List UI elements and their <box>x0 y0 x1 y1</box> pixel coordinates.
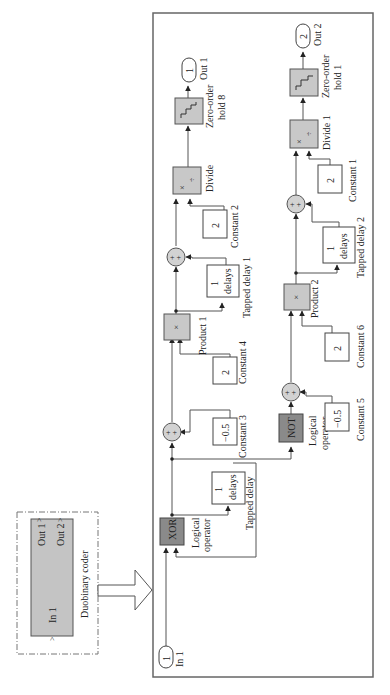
svg-text:delays: delays <box>227 474 238 500</box>
svg-text:1: 1 <box>161 656 172 661</box>
svg-text:−0.5: −0.5 <box>220 424 231 442</box>
svg-text:×: × <box>294 293 299 302</box>
tapped-delay-1-label: Tapped delay 1 <box>241 257 252 318</box>
constant-6[interactable]: 2 Constant 6 <box>325 325 366 368</box>
svg-text:delays: delays <box>222 268 233 294</box>
divide-1-label: Divide 1 <box>321 115 332 150</box>
constant-3[interactable]: −0.5 Constant 3 <box>213 415 248 458</box>
sum-bottom-1[interactable]: + + <box>282 383 300 401</box>
svg-text:+ +: + + <box>290 200 302 209</box>
svg-text:×: × <box>295 139 304 144</box>
svg-text:×: × <box>174 323 179 332</box>
xor-label-1: Logical <box>190 517 201 548</box>
svg-text:+ +: + + <box>166 428 178 437</box>
sum-top-1[interactable]: + + <box>163 423 181 441</box>
expand-arrow-icon <box>98 570 152 610</box>
svg-text:XOR: XOR <box>167 519 178 540</box>
svg-text:1: 1 <box>209 281 220 286</box>
svg-text:+ +: + + <box>285 388 297 397</box>
subsystem-title: Duobinary coder <box>79 550 90 618</box>
port-caret-out2: > <box>56 517 65 522</box>
constant-2-label: Constant 2 <box>229 205 240 248</box>
svg-text:×: × <box>178 185 187 190</box>
port-caret-out1: > <box>35 517 44 522</box>
xor-logical-operator[interactable]: XOR Logical operator <box>160 517 212 552</box>
svg-text:1: 1 <box>213 487 224 492</box>
sum-top-2[interactable]: + + <box>167 248 185 266</box>
outport-out1-label: Out 1 <box>198 58 209 81</box>
product-2-label: Product 2 <box>309 279 320 318</box>
tapped-delay-2-label: Tapped delay 2 <box>355 217 366 278</box>
inport-in1-label: In 1 <box>174 651 185 667</box>
tapped-delay[interactable]: 1 delays Tapped delay <box>212 472 255 530</box>
svg-text:1: 1 <box>184 68 195 73</box>
constant-4-label: Constant 4 <box>237 341 248 384</box>
inport-in1[interactable]: 1 In 1 <box>159 646 185 668</box>
zoh-1-label-1: Zero-order <box>320 54 331 98</box>
svg-text:+ +: + + <box>170 253 182 262</box>
diagram-canvas: In 1 Out 1 Out 2 > > > Duobinary coder <box>0 0 390 695</box>
zoh-1-label-2: hold 1 <box>332 65 343 90</box>
svg-text:÷: ÷ <box>305 131 314 136</box>
constant-1-label: Constant 1 <box>347 159 358 202</box>
svg-text:2: 2 <box>332 346 343 351</box>
product-1-label: Product 1 <box>197 316 208 355</box>
constant-1[interactable]: 2 Constant 1 <box>318 159 358 202</box>
xor-label-2: operator <box>201 518 212 552</box>
svg-text:2: 2 <box>325 178 336 183</box>
constant-5[interactable]: −0.5 Constant 5 <box>325 398 366 441</box>
svg-text:2: 2 <box>298 34 309 39</box>
product-1[interactable]: × Product 1 <box>164 314 208 355</box>
zoh-8-label-2: hold 8 <box>216 95 227 120</box>
subsystem-port-in1: In 1 <box>47 607 58 623</box>
constant-4[interactable]: 2 Constant 4 <box>213 341 248 384</box>
tapped-delay-2[interactable]: 1 delays Tapped delay 2 <box>323 217 366 278</box>
zero-order-hold-1[interactable]: Zero-order hold 1 <box>290 54 343 98</box>
svg-text:÷: ÷ <box>188 177 197 182</box>
svg-text:1: 1 <box>325 246 336 251</box>
svg-text:NOT: NOT <box>286 417 297 438</box>
constant-6-label: Constant 6 <box>355 325 366 368</box>
not-label-1: Logical <box>307 415 318 446</box>
sum-bottom-2[interactable]: + + <box>287 195 305 213</box>
outport-out1[interactable]: 1 Out 1 <box>182 58 209 83</box>
zoh-8-label-1: Zero-order <box>204 84 215 128</box>
svg-text:2: 2 <box>210 223 221 228</box>
port-caret-in1: > <box>48 636 57 641</box>
tapped-delay-1[interactable]: 1 delays Tapped delay 1 <box>207 257 252 318</box>
outport-out2[interactable]: 2 Out 2 <box>296 24 323 49</box>
svg-text:2: 2 <box>220 370 231 375</box>
divide-1[interactable]: × ÷ Divide 1 <box>290 115 332 150</box>
subsystem-port-out1: Out 1 <box>36 524 47 547</box>
constant-2[interactable]: 2 Constant 2 <box>203 205 240 248</box>
zero-order-hold-8[interactable]: Zero-order hold 8 <box>175 84 227 128</box>
duobinary-coder-subsystem: In 1 Out 1 Out 2 > > > Duobinary coder <box>17 512 98 654</box>
svg-text:−0.5: −0.5 <box>332 410 343 428</box>
constant-3-label: Constant 3 <box>237 415 248 458</box>
svg-text:delays: delays <box>338 233 349 259</box>
not-logical-operator[interactable]: NOT Logical operator <box>279 414 330 450</box>
subsystem-port-out2: Out 2 <box>55 524 66 547</box>
outport-out2-label: Out 2 <box>312 24 323 47</box>
divide[interactable]: × ÷ Divide <box>173 164 215 194</box>
constant-5-label: Constant 5 <box>355 398 366 441</box>
divide-label: Divide <box>204 164 215 192</box>
tapped-delay-label: Tapped delay <box>244 477 255 530</box>
